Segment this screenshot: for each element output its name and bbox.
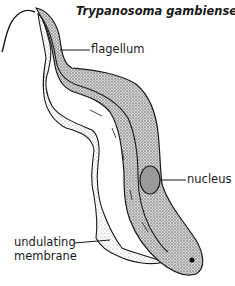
nucleus-shape [140,166,160,194]
label-membrane: membrane [14,250,77,263]
kinetoplast-dot [190,258,195,263]
label-undulating: undulating [14,236,76,249]
diagram-title: Trypanosoma gambiense [76,4,235,18]
label-flagellum: flagellum [91,43,145,56]
free-flagellum [2,10,35,52]
label-nucleus: nucleus [187,173,231,186]
